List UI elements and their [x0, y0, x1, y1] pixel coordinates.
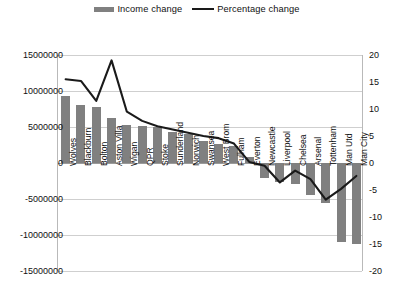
x-axis-category-label: Chelsea: [298, 134, 308, 166]
y-axis-right-tick-label: 0: [369, 158, 374, 168]
x-axis-category-label: Blackburn: [83, 128, 93, 166]
x-axis-category-label: Everton: [252, 136, 262, 166]
x-axis-category-label: Arsenal: [313, 137, 323, 166]
y-axis-right-tick-label: -15: [369, 239, 382, 249]
y-axis-right-tick-label: 5: [369, 131, 374, 141]
x-axis-category-label: West Brom: [221, 124, 231, 166]
x-axis-category-label: Stoke: [160, 144, 170, 166]
x-axis-category-label: Fulham: [236, 137, 246, 166]
x-axis-category-label: Man City: [359, 132, 369, 166]
y-axis-right-tick-label: 10: [369, 104, 379, 114]
x-axis-category-labels: WolvesBlackburnBoltonAston VillaWiganQPR…: [57, 0, 363, 292]
income-and-percentage-change-chart: Income change Percentage change 15000000…: [0, 0, 394, 292]
x-axis-category-label: Swansea: [206, 131, 216, 166]
x-axis-category-label: Wolves: [68, 138, 78, 166]
x-axis-category-label: Norwich: [191, 135, 201, 166]
y-axis-right-tick-label: 20: [369, 50, 379, 60]
x-axis-category-label: Aston Villa: [114, 126, 124, 166]
x-axis-category-label: Sunderland: [175, 122, 185, 166]
y-axis-right-tick-label: -10: [369, 212, 382, 222]
x-axis-category-label: QPR: [145, 147, 155, 166]
x-axis-category-label: Liverpool: [282, 131, 292, 166]
x-axis-category-label: Wigan: [129, 142, 139, 166]
y-axis-right-tick-label: 15: [369, 77, 379, 87]
x-axis-category-label: Man Utd: [344, 134, 354, 166]
y-axis-right-tick-label: -5: [369, 185, 377, 195]
x-axis-category-label: Tottenham: [328, 126, 338, 166]
y-axis-right-tick-label: -20: [369, 266, 382, 276]
x-axis-category-label: Bolton: [99, 142, 109, 166]
x-axis-category-label: Newcastle: [267, 126, 277, 166]
